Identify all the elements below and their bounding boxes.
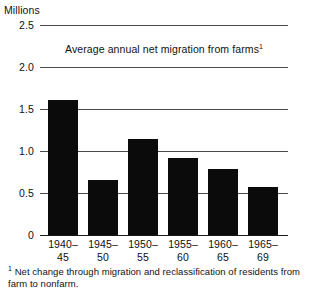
x-axis-tick-label-line: 60 (162, 251, 204, 264)
y-axis-tick-label: 2.5 (0, 19, 34, 31)
bar (168, 158, 198, 235)
gridline (40, 25, 288, 26)
x-axis-tick-label: 1960–65 (202, 238, 244, 264)
y-axis-tick-label: 0.5 (0, 187, 34, 199)
x-axis-tick-label-line: 50 (82, 251, 124, 264)
x-axis-tick-label: 1965–69 (242, 238, 284, 264)
x-axis-tick-label-line: 1955– (162, 238, 204, 251)
footnote-text: Net change through migration and reclass… (8, 266, 300, 289)
y-axis-tick-label: 1.5 (0, 103, 34, 115)
x-axis-tick-label-line: 55 (122, 251, 164, 264)
bar (88, 180, 118, 235)
x-axis-tick-label-line: 45 (42, 251, 84, 264)
bar (248, 187, 278, 235)
x-axis-tick-label-line: 1965– (242, 238, 284, 251)
x-axis-tick-label-line: 1940– (42, 238, 84, 251)
chart-footnote: 1 Net change through migration and recla… (8, 266, 306, 290)
chart-title: Average annual net migration from farms1 (40, 43, 288, 55)
x-axis-tick-label: 1955–60 (162, 238, 204, 264)
plot-area: 2.52.01.51.00.50 Average annual net migr… (0, 0, 313, 245)
x-axis-tick-label-line: 69 (242, 251, 284, 264)
x-axis-tick-label: 1940–45 (42, 238, 84, 264)
bar (48, 100, 78, 235)
x-axis-tick-label: 1945–50 (82, 238, 124, 264)
x-axis-tick-label-line: 1950– (122, 238, 164, 251)
x-axis-tick-label: 1950–55 (122, 238, 164, 264)
y-axis-tick-label: 1.0 (0, 145, 34, 157)
bar (128, 139, 158, 235)
axis-baseline (40, 235, 288, 236)
y-axis-tick-label: 2.0 (0, 61, 34, 73)
chart-root: Millions 2.52.01.51.00.50 Average annual… (0, 0, 313, 292)
gridline (40, 67, 288, 68)
bar (208, 169, 238, 235)
x-axis-tick-label-line: 65 (202, 251, 244, 264)
title-footnote-marker: 1 (259, 43, 263, 50)
x-axis-tick-label-line: 1960– (202, 238, 244, 251)
x-axis-tick-label-line: 1945– (82, 238, 124, 251)
